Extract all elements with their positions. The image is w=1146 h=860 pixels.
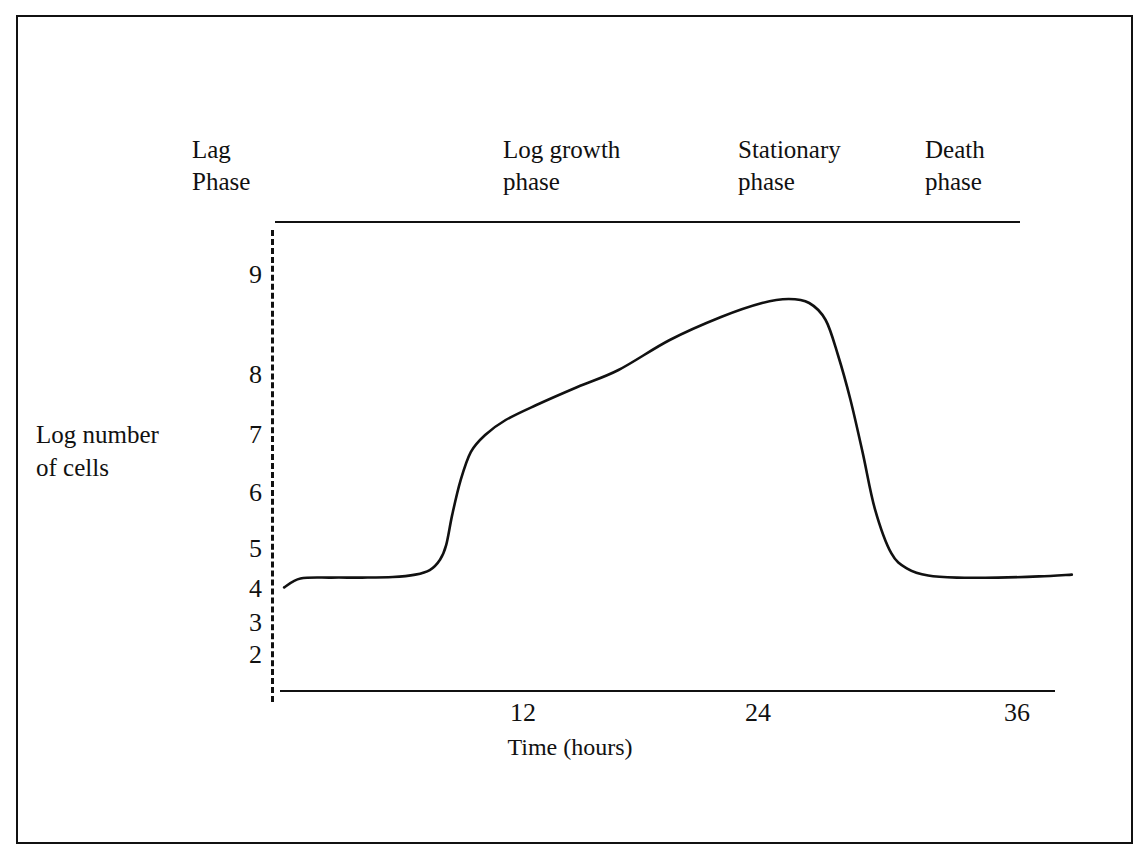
- y-tick-label-4: 4: [222, 576, 262, 602]
- y-tick-label-5: 5: [222, 536, 262, 562]
- x-tick-label-24: 24: [723, 700, 793, 726]
- y-tick-label-6: 6: [222, 480, 262, 506]
- y-tick-label-3: 3: [222, 610, 262, 636]
- phase-label-death: Death phase: [925, 134, 985, 198]
- y-tick-label-8: 8: [222, 362, 262, 388]
- phase-divider-rule: [275, 221, 1020, 223]
- phase-label-log-growth: Log growth phase: [503, 134, 620, 198]
- figure-canvas: Lag Phase Log growth phase Stationary ph…: [0, 0, 1146, 860]
- x-tick-label-36: 36: [982, 700, 1052, 726]
- phase-label-stationary: Stationary phase: [738, 134, 841, 198]
- x-tick-label-12: 12: [488, 700, 558, 726]
- y-axis-dashed-line: [271, 230, 274, 702]
- y-tick-label-2: 2: [222, 642, 262, 668]
- x-axis-line: [280, 690, 1055, 692]
- y-axis-title: Log number of cells: [36, 419, 159, 484]
- y-tick-label-9: 9: [222, 262, 262, 288]
- phase-label-lag: Lag Phase: [192, 134, 250, 198]
- y-tick-label-7: 7: [222, 422, 262, 448]
- x-axis-title: Time (hours): [460, 734, 680, 761]
